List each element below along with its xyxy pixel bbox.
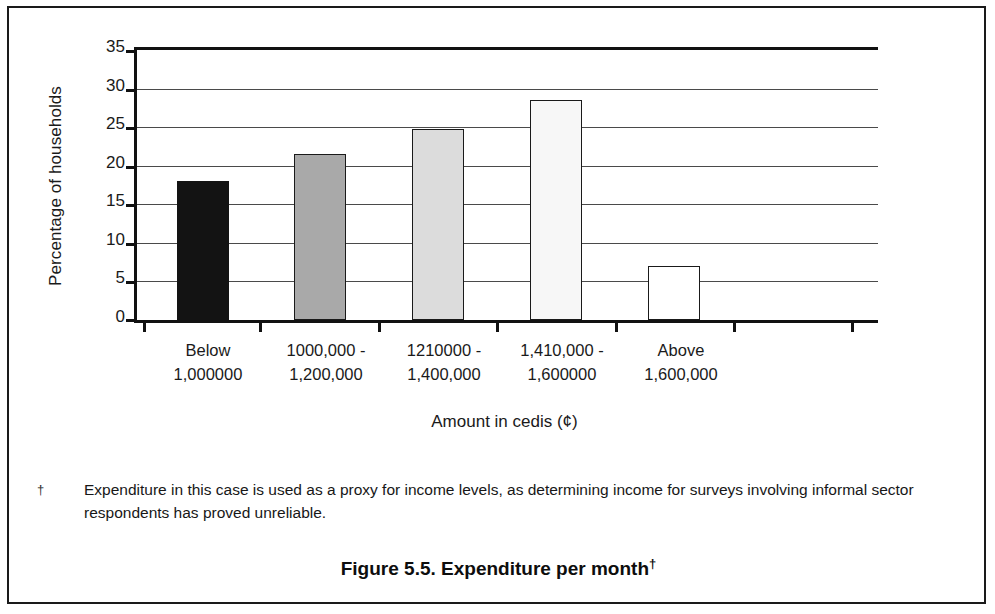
x-tick-mark-4: [615, 320, 618, 332]
footnote-dagger-marker: †: [37, 482, 44, 497]
y-tick-mark-25: [126, 127, 137, 130]
figure-caption-dagger: †: [649, 556, 656, 571]
gridline-30: [137, 89, 878, 90]
bar-chart: Percentage of households 35 30 25 20 15 …: [9, 8, 988, 448]
figure-frame: Percentage of households 35 30 25 20 15 …: [7, 6, 986, 604]
y-tick-label: 20: [87, 154, 125, 171]
figure-caption: Figure 5.5. Expenditure per month†: [9, 556, 988, 580]
y-tick-label: 15: [87, 192, 125, 209]
gridline-5: [137, 281, 878, 282]
y-tick-mark-5: [126, 281, 137, 284]
y-tick-mark-30: [126, 89, 137, 92]
x-tick-mark-0: [143, 320, 146, 332]
bar-1000000-1200000[interactable]: [294, 154, 346, 320]
footnote-text: Expenditure in this case is used as a pr…: [84, 478, 946, 524]
x-axis-tick-labels: Below 1,000000 1000,000 - 1,200,000 1210…: [134, 338, 894, 398]
x-tick-mark-6: [851, 320, 854, 332]
y-tick-label: 30: [87, 77, 125, 94]
plot-area: [134, 47, 878, 323]
bar-below-1000000[interactable]: [177, 181, 229, 320]
x-tick-mark-2: [378, 320, 381, 332]
x-tick-mark-1: [259, 320, 262, 332]
y-tick-label: 25: [87, 115, 125, 132]
gridline-15: [137, 204, 878, 205]
y-tick-label: 0: [87, 308, 125, 325]
y-axis-tick-labels: 35 30 25 20 15 10 5 0: [87, 38, 125, 328]
x-tick-label-line1: Above: [601, 338, 761, 362]
plot-inner: [137, 50, 878, 320]
x-tick-mark-3: [496, 320, 499, 332]
y-tick-label: 10: [87, 231, 125, 248]
y-axis-title: Percentage of households: [46, 51, 66, 321]
y-tick-mark-10: [126, 243, 137, 246]
bar-above-1600000[interactable]: [648, 266, 700, 320]
gridline-25: [137, 127, 878, 128]
figure-caption-text: Figure 5.5. Expenditure per month: [341, 558, 649, 579]
gridline-20: [137, 166, 878, 167]
y-tick-mark-20: [126, 166, 137, 169]
y-tick-label: 5: [87, 269, 125, 286]
x-tick-label-4: Above 1,600,000: [601, 338, 761, 386]
y-tick-mark-15: [126, 204, 137, 207]
y-tick-mark-35: [126, 50, 137, 53]
y-tick-mark-0: [126, 319, 137, 322]
y-tick-label: 35: [87, 38, 125, 55]
x-tick-mark-5: [733, 320, 736, 332]
bar-1410000-1600000[interactable]: [530, 100, 582, 320]
gridline-10: [137, 243, 878, 244]
x-axis-title: Amount in cedis (¢): [134, 412, 875, 432]
x-tick-label-line2: 1,600,000: [601, 362, 761, 386]
bar-1210000-1400000[interactable]: [412, 129, 464, 320]
